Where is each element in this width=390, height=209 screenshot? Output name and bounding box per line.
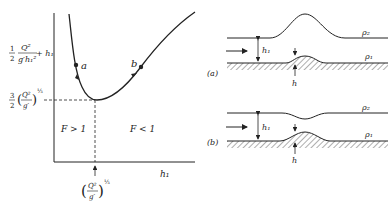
point-a-marker — [74, 63, 78, 67]
panel-a-bump-label: h — [292, 79, 297, 88]
svg-text:1: 1 — [10, 45, 14, 53]
panel-a-two-layer-flow: h₁ h ρ₂ ρ₁ (a) — [207, 14, 388, 88]
point-a-label: a — [81, 60, 87, 71]
svg-text:+ h₁: + h₁ — [36, 49, 54, 58]
svg-text:3: 3 — [10, 92, 14, 100]
svg-text:(: ( — [81, 182, 87, 200]
diagram-canvas: a b F > 1 F < 1 h₁ 1 2 Q² g′h₁² + h₁ 3 2… — [0, 0, 390, 209]
svg-text:⅓: ⅓ — [104, 178, 110, 185]
panel-b-two-layer-flow: h₁ h ρ₂ ρ₁ (b) — [207, 103, 388, 165]
panel-b-interface — [227, 113, 388, 119]
svg-text:2: 2 — [10, 102, 14, 110]
svg-text:g′: g′ — [89, 193, 95, 201]
svg-text:Q²: Q² — [21, 43, 31, 52]
x-axis-critical-depth-label: ( Q² g′ ) ⅓ — [81, 178, 110, 201]
panel-b-upper-density: ρ₂ — [361, 103, 370, 112]
panel-a-label: (a) — [207, 69, 218, 78]
point-b-marker — [139, 65, 143, 69]
svg-text:⅓: ⅓ — [37, 87, 43, 94]
y-axis-label-minimum: 3 2 ( Q² g′ ) ⅓ — [9, 87, 43, 110]
svg-text:): ) — [98, 182, 104, 200]
panel-a-upper-density: ρ₂ — [361, 28, 370, 37]
svg-text:g′: g′ — [23, 102, 29, 110]
svg-text:2: 2 — [10, 55, 14, 63]
svg-text:g′h₁²: g′h₁² — [18, 55, 37, 64]
region-subcritical-label: F < 1 — [129, 124, 155, 134]
panel-a-depth-label: h₁ — [262, 46, 270, 55]
svg-text:Q²: Q² — [22, 91, 31, 99]
panel-b-label: (b) — [207, 138, 218, 147]
x-axis-label: h₁ — [160, 169, 169, 179]
panel-a-lower-density: ρ₁ — [364, 52, 373, 61]
y-axis-label-energy: 1 2 Q² g′h₁² + h₁ — [9, 43, 54, 64]
panel-b-ground-hatch — [227, 132, 388, 148]
svg-text:Q²: Q² — [88, 182, 97, 190]
point-b-label: b — [131, 58, 137, 69]
region-supercritical-label: F > 1 — [60, 124, 86, 134]
panel-b-lower-density: ρ₁ — [364, 130, 373, 139]
panel-b-depth-label: h₁ — [262, 123, 270, 132]
panel-b-bump-label: h — [292, 156, 297, 165]
svg-text:): ) — [32, 92, 37, 107]
energy-graph: a b F > 1 F < 1 h₁ 1 2 Q² g′h₁² + h₁ 3 2… — [9, 12, 195, 201]
specific-energy-curve — [69, 12, 195, 100]
